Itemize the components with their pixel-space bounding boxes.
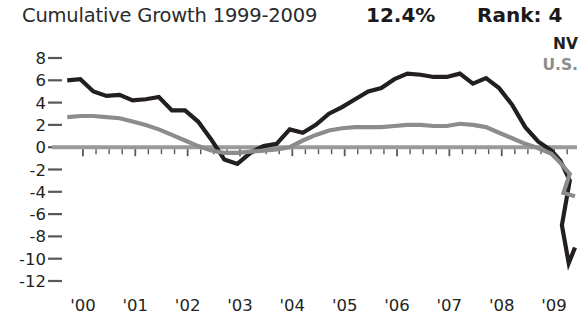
x-axis-tick-label: '03 [227, 296, 253, 315]
x-axis-tick-label: '04 [280, 296, 306, 315]
chart-svg [0, 0, 588, 332]
x-axis-tick-label: '08 [489, 296, 515, 315]
series-line-nv [67, 74, 575, 264]
x-axis-tick-label: '09 [541, 296, 567, 315]
plot-area [0, 0, 588, 332]
series-line-us [67, 116, 575, 196]
x-axis-labels: '00'01'02'03'04'05'06'07'08'09 [0, 296, 588, 326]
x-axis-tick-label: '07 [437, 296, 463, 315]
chart-root: Cumulative Growth 1999-2009 12.4% Rank: … [0, 0, 588, 332]
x-axis-tick-label: '06 [384, 296, 410, 315]
x-axis-tick-label: '02 [175, 296, 201, 315]
x-axis-tick-label: '00 [70, 296, 96, 315]
x-axis-tick-label: '01 [123, 296, 149, 315]
x-axis-tick-label: '05 [332, 296, 358, 315]
